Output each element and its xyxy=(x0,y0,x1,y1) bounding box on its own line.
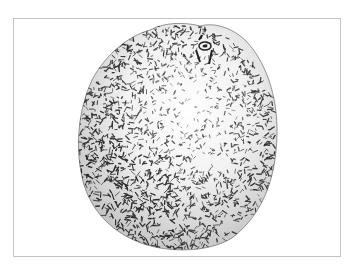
fruit-body xyxy=(77,23,277,253)
citrus-fruit-drawing xyxy=(0,0,357,268)
